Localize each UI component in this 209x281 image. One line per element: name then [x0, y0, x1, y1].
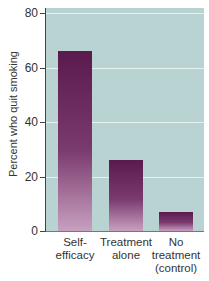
tick-label: 80 [12, 7, 38, 19]
y-axis [45, 8, 46, 232]
bar [58, 51, 92, 231]
y-axis-label: Percent who quit smoking [7, 67, 19, 177]
category-label: Notreatment(control) [148, 236, 204, 275]
tick-mark [40, 177, 46, 178]
gridline [46, 13, 204, 14]
x-axis [45, 231, 204, 232]
bar [159, 212, 193, 231]
category-label: Self-efficacy [47, 236, 103, 262]
tick-mark [40, 122, 46, 123]
bar [109, 160, 143, 231]
tick-mark [40, 231, 46, 232]
tick-mark [40, 13, 46, 14]
category-label: Treatmentalone [98, 236, 154, 262]
tick-label: 0 [12, 225, 38, 237]
tick-mark [40, 68, 46, 69]
